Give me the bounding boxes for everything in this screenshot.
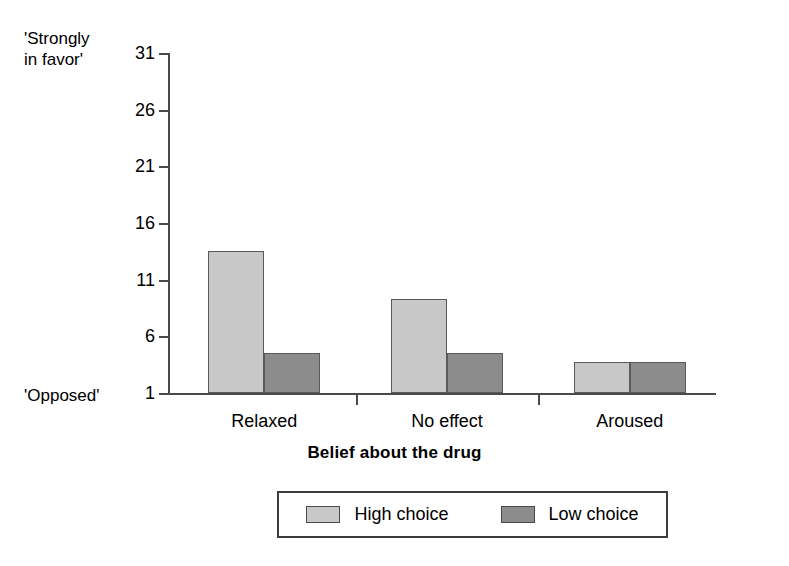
bar xyxy=(391,299,447,393)
x-axis-title: Belief about the drug xyxy=(0,443,789,463)
y-axis-tick-mark xyxy=(159,336,169,338)
bar-chart: 'Strongly in favor' 'Opposed' 1611162126… xyxy=(0,0,789,566)
x-axis-category-label: Relaxed xyxy=(231,411,297,432)
bar xyxy=(630,362,686,393)
y-axis-tick-label: 21 xyxy=(135,156,155,177)
legend-item: High choice xyxy=(306,504,448,525)
y-axis-tick-label: 11 xyxy=(136,269,155,290)
bar xyxy=(447,353,503,393)
legend-label: High choice xyxy=(354,504,448,525)
chart-legend: High choiceLow choice xyxy=(277,491,668,538)
x-axis-tick-mark xyxy=(538,395,540,405)
y-axis-tick-label: 26 xyxy=(135,99,155,120)
bar xyxy=(264,353,320,393)
legend-color-swatch xyxy=(501,506,535,523)
y-axis-top-anchor-label: 'Strongly in favor' xyxy=(24,28,129,70)
y-axis-tick-mark xyxy=(159,223,169,225)
y-axis-tick-label: 6 xyxy=(145,326,155,347)
x-axis-line xyxy=(168,393,716,395)
y-axis-tick-mark xyxy=(159,393,169,395)
x-axis-category-label: No effect xyxy=(411,411,483,432)
y-axis-tick-label: 31 xyxy=(135,43,155,64)
y-axis-tick-label: 1 xyxy=(145,383,155,404)
bar xyxy=(208,251,264,393)
legend-item: Low choice xyxy=(501,504,639,525)
x-axis-category-label: Aroused xyxy=(596,411,663,432)
y-axis-tick-mark xyxy=(159,110,169,112)
x-axis-tick-mark xyxy=(356,395,358,405)
y-axis-tick-label: 16 xyxy=(135,213,155,234)
y-axis-tick-mark xyxy=(159,53,169,55)
y-axis-bottom-anchor-label: 'Opposed' xyxy=(24,385,129,406)
y-axis-tick-mark xyxy=(159,280,169,282)
legend-label: Low choice xyxy=(549,504,639,525)
plot-area: 161116212631 RelaxedNo effectAroused xyxy=(168,53,716,395)
y-axis-tick-mark xyxy=(159,166,169,168)
legend-color-swatch xyxy=(306,506,340,523)
bar xyxy=(574,362,630,393)
